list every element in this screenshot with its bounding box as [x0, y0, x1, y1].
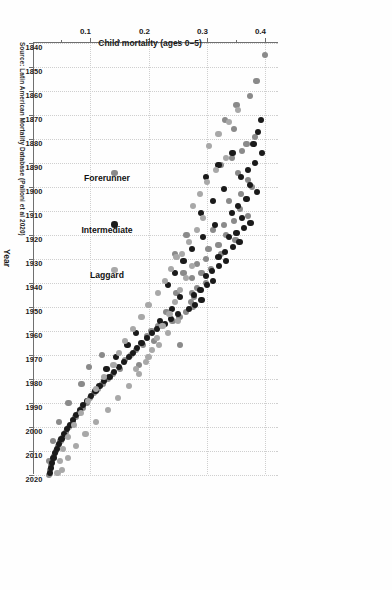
x-gridline: [34, 379, 278, 380]
data-point: [175, 318, 181, 324]
data-point: [78, 410, 84, 416]
data-point: [189, 275, 195, 281]
data-point: [110, 362, 116, 368]
data-point: [229, 210, 235, 216]
x-axis-tick-label: 1990: [25, 403, 42, 412]
x-gridline: [34, 67, 278, 68]
data-point: [85, 398, 91, 404]
data-point: [231, 126, 237, 132]
data-point: [155, 290, 161, 296]
figure-page: 1840185018601870188018901900191019201930…: [0, 0, 392, 590]
data-point: [101, 374, 107, 380]
data-point: [93, 386, 99, 392]
x-axis-tick-label: 1920: [25, 235, 42, 244]
data-point: [156, 342, 162, 348]
x-axis-tick-label: 1850: [25, 67, 42, 76]
data-point: [245, 167, 251, 173]
x-gridline: [34, 355, 278, 356]
data-point: [210, 278, 216, 284]
data-point: [105, 407, 111, 413]
data-point: [194, 227, 200, 233]
data-point: [145, 302, 151, 308]
data-point: [179, 251, 185, 257]
data-point: [183, 232, 189, 238]
x-axis-tick-label: 2010: [25, 451, 42, 460]
data-point: [149, 347, 155, 353]
data-point: [66, 400, 72, 406]
x-axis-tick-label: 1880: [25, 139, 42, 148]
data-point: [189, 263, 195, 269]
data-point: [186, 239, 192, 245]
data-point: [136, 371, 142, 377]
x-axis-tick-label: 1980: [25, 379, 42, 388]
data-point: [57, 458, 63, 464]
data-point: [56, 419, 62, 425]
data-point: [252, 160, 258, 166]
plot-area: 1840185018601870188018901900191019201930…: [33, 42, 278, 474]
data-point: [229, 150, 235, 156]
data-point: [65, 434, 71, 440]
data-point: [73, 443, 79, 449]
data-point: [199, 297, 205, 303]
data-point: [238, 174, 244, 180]
data-point: [165, 330, 171, 336]
data-point: [138, 314, 144, 320]
data-point: [223, 155, 229, 161]
data-point: [144, 335, 150, 341]
x-axis-tick-label: 1930: [25, 259, 42, 268]
legend-item[interactable]: Intermediate: [108, 199, 119, 250]
data-point: [210, 198, 216, 204]
data-point: [259, 150, 265, 156]
data-point: [203, 273, 209, 279]
data-point: [239, 148, 245, 154]
data-point: [189, 246, 195, 252]
x-axis-tick-label: 1900: [25, 187, 42, 196]
x-gridline: [34, 115, 278, 116]
x-gridline: [34, 187, 278, 188]
data-point: [93, 419, 99, 425]
data-point: [235, 107, 241, 113]
data-point: [173, 254, 179, 260]
y-axis-title: Child mortality (ages 0–5): [28, 38, 273, 48]
data-point: [71, 422, 77, 428]
data-point: [204, 179, 210, 185]
data-point: [78, 381, 84, 387]
x-axis-tick-label: 1890: [25, 163, 42, 172]
data-point: [239, 215, 245, 221]
data-point: [212, 222, 218, 228]
data-point: [197, 287, 203, 293]
y-gridline: [90, 43, 91, 474]
data-point: [121, 359, 127, 365]
data-point: [245, 213, 251, 219]
data-point: [231, 218, 237, 224]
data-point: [115, 395, 121, 401]
x-axis-tick-label: 1870: [25, 115, 42, 124]
data-point: [143, 359, 149, 365]
data-point: [206, 143, 212, 149]
data-point: [230, 244, 236, 250]
x-axis-tick-label: 1860: [25, 91, 42, 100]
data-point: [186, 306, 192, 312]
data-point: [99, 352, 105, 358]
y-axis-tick-label: 0.1: [80, 27, 91, 36]
y-gridline: [265, 43, 266, 474]
x-axis-tick-label: 2000: [25, 427, 42, 436]
legend-item[interactable]: Forerunner: [108, 150, 119, 196]
data-point: [210, 227, 216, 233]
x-gridline: [34, 91, 278, 92]
data-point: [223, 258, 229, 264]
data-point: [86, 364, 92, 370]
data-point: [172, 270, 178, 276]
x-axis-tick-label: 1950: [25, 307, 42, 316]
data-point: [183, 275, 189, 281]
data-point: [221, 186, 227, 192]
legend-item[interactable]: Laggard: [108, 253, 119, 287]
x-gridline: [34, 307, 278, 308]
y-axis-tick-label: 0.4: [255, 27, 266, 36]
data-point: [126, 383, 132, 389]
data-point: [255, 129, 261, 135]
data-point: [103, 366, 109, 372]
data-point: [215, 131, 221, 137]
data-point: [177, 294, 183, 300]
data-point: [215, 254, 221, 260]
